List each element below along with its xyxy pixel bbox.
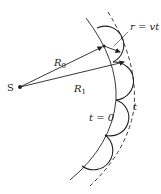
diagram-canvas: S R0 R1 r = vt t = 0 t: [0, 0, 161, 194]
r1-label: R1: [73, 83, 86, 96]
ray-r1: [20, 62, 124, 87]
initial-front-label: t = 0: [89, 112, 115, 123]
source-point: [18, 85, 22, 89]
initial-wavefront: [70, 18, 116, 180]
wavelet-center: [102, 44, 105, 47]
source-label: S: [7, 82, 14, 93]
radius-leader: [114, 32, 128, 46]
wavelet-radius-label: r = vt: [130, 21, 160, 32]
wavelet-1: [97, 26, 124, 62]
later-front-label: t: [133, 101, 138, 112]
huygens-diagram: S R0 R1 r = vt t = 0 t: [0, 0, 161, 194]
later-wavefront: [90, 12, 134, 186]
